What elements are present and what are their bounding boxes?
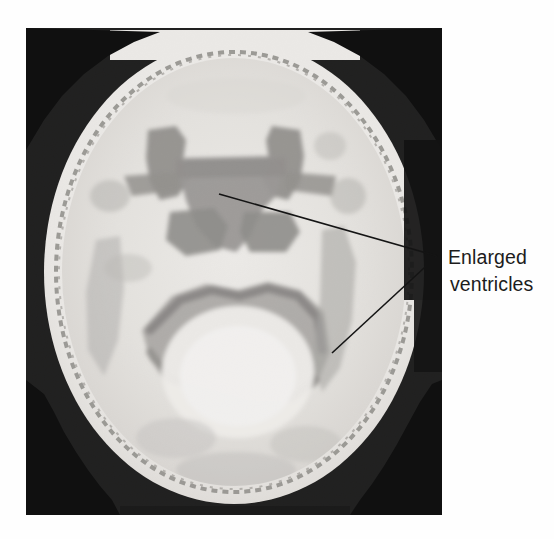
scan-bottom-strip bbox=[120, 506, 350, 515]
scan-grain-overlay bbox=[26, 28, 442, 515]
annotation-label-line-1: Enlarged bbox=[448, 246, 527, 268]
brain-scan-figure: Enlarged ventricles bbox=[0, 0, 554, 539]
figure-root: Enlarged ventricles bbox=[0, 0, 554, 539]
scan-right-dark-band-2 bbox=[414, 300, 442, 372]
annotation-label-line-2: ventricles bbox=[450, 273, 534, 295]
scan-image bbox=[26, 28, 442, 515]
scan-right-dark-band bbox=[404, 140, 442, 300]
